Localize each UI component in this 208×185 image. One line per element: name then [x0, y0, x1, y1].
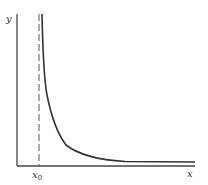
- chart-canvas: y x x0: [0, 0, 208, 185]
- x0-label-subscript: 0: [38, 174, 42, 182]
- x0-label: x0: [32, 169, 42, 182]
- curve-line: [42, 14, 195, 162]
- x-axis-label: x: [187, 168, 193, 179]
- y-axis-label: y: [5, 13, 12, 24]
